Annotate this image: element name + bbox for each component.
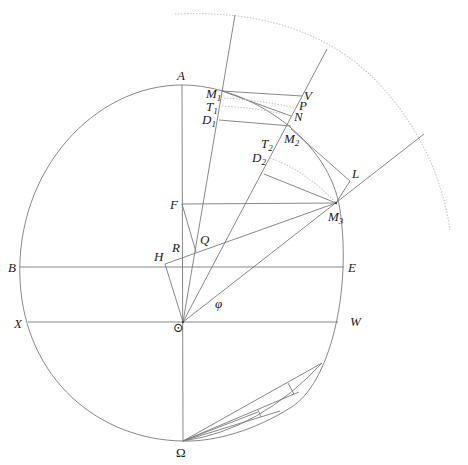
ray-1 xyxy=(183,15,235,322)
label-M3: M3 xyxy=(327,209,344,226)
axis-vertical xyxy=(182,85,183,441)
line-D2-M3 xyxy=(264,174,336,203)
line-L-M3 xyxy=(336,181,350,203)
dotted-T1-N xyxy=(222,106,291,116)
sun-symbol: ⊙ xyxy=(173,320,184,335)
ray-3 xyxy=(183,134,424,322)
line-F-Q xyxy=(182,204,196,252)
label-phi: φ xyxy=(215,296,222,311)
label-omega: Ω xyxy=(176,445,186,460)
chord-1 xyxy=(183,363,322,441)
label-T2: T2 xyxy=(261,136,273,153)
line-D1-M2 xyxy=(219,120,291,126)
label-N: N xyxy=(293,109,304,124)
chord-3 xyxy=(183,411,280,441)
label-D2: D2 xyxy=(251,150,266,167)
outer-dotted-arc xyxy=(175,14,450,230)
label-B: B xyxy=(8,260,16,275)
M3-point xyxy=(335,202,337,204)
label-R: R xyxy=(171,240,180,255)
label-W: W xyxy=(350,314,362,329)
line-F-M3 xyxy=(182,203,336,204)
orbit-diagram: A B E X W F Q R H V P N L M1 T1 D1 M2 T2… xyxy=(0,0,468,465)
line-M2-L xyxy=(291,129,350,181)
label-Q: Q xyxy=(200,232,210,247)
label-A: A xyxy=(176,68,185,83)
label-X: X xyxy=(13,316,23,331)
label-L: L xyxy=(351,166,359,181)
label-H: H xyxy=(153,249,164,264)
ray-sun-H xyxy=(165,264,183,322)
label-E: E xyxy=(347,260,356,275)
label-F: F xyxy=(169,197,179,212)
